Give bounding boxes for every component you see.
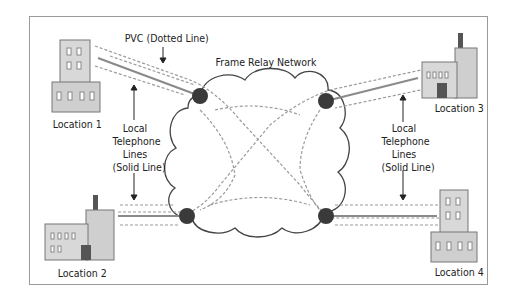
location-1-label: Location 1	[53, 118, 102, 131]
location-3-label: Location 3	[435, 102, 484, 115]
local-lines-right-label: Local Telephone Lines (Solid Line)	[379, 122, 429, 174]
factory-icon-location-3	[422, 33, 477, 98]
network-label: Frame Relay Network	[216, 56, 317, 69]
node-icon	[318, 93, 334, 109]
node-icon	[318, 208, 334, 224]
node-icon	[179, 208, 195, 224]
building-icon-location-1	[52, 40, 100, 112]
local-lines-left-label: Local Telephone Lines (Solid Line)	[110, 122, 160, 174]
frame-relay-diagram	[0, 0, 517, 308]
building-icon-location-4	[431, 190, 477, 262]
pvc-label: PVC (Dotted Line)	[125, 32, 209, 45]
location-4-label: Location 4	[435, 266, 484, 279]
location-2-label: Location 2	[58, 267, 107, 280]
factory-icon-location-2	[45, 195, 114, 260]
node-icon	[192, 88, 208, 104]
